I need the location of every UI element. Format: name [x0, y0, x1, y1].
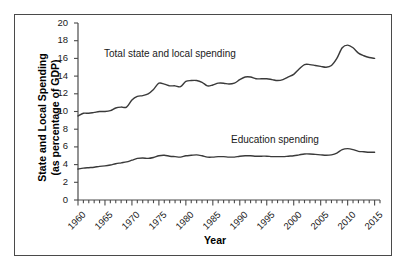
y-tick-label: 6	[46, 140, 68, 151]
y-tick-label: 10	[46, 105, 68, 116]
y-tick-label: 14	[46, 70, 68, 81]
y-tick-label: 20	[46, 17, 68, 28]
y-tick-label: 16	[46, 52, 68, 63]
y-tick-label: 8	[46, 123, 68, 134]
y-tick-label: 12	[46, 87, 68, 98]
y-tick-label: 0	[46, 194, 68, 205]
series-line-education	[78, 149, 375, 169]
series-label-education: Education spending	[231, 134, 319, 145]
chart-figure: State and Local Spending (as percentage …	[0, 0, 408, 276]
series-label-total: Total state and local spending	[104, 48, 236, 59]
y-tick-label: 4	[46, 158, 68, 169]
x-axis-title: Year	[150, 234, 280, 246]
y-tick-label: 2	[46, 176, 68, 187]
y-tick-label: 18	[46, 34, 68, 45]
data-series	[78, 45, 375, 169]
